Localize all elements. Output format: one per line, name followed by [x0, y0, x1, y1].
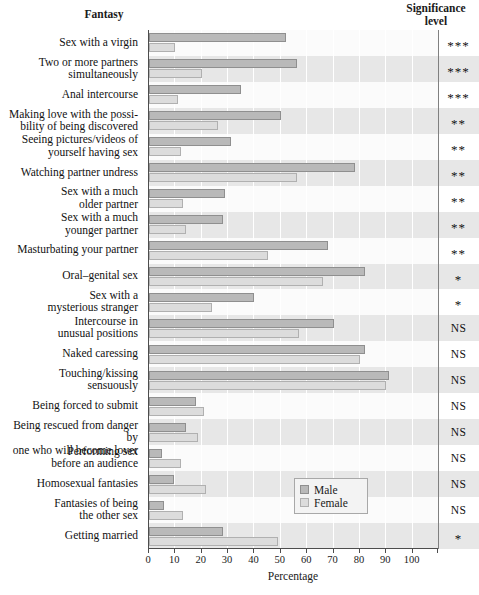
x-axis-tick	[148, 549, 149, 553]
bar-male	[149, 33, 286, 42]
bar-female	[149, 225, 186, 234]
category-label-line: Performing sex	[0, 445, 138, 457]
category-label-line: Touching/kissing	[0, 367, 138, 379]
x-axis-tick-label: 60	[294, 554, 318, 565]
significance-header-line1: Significance	[396, 2, 476, 15]
bar-male	[149, 371, 389, 380]
category-label-line: Making love with the possi-	[0, 108, 138, 120]
category-label-line: Watching partner undress	[0, 166, 138, 178]
significance-value: NS	[438, 374, 479, 386]
category-label-line: younger partner	[0, 224, 138, 236]
significance-value: **	[438, 145, 479, 154]
x-axis-tick	[412, 549, 413, 553]
category-label: Touching/kissingsensuously	[0, 367, 138, 392]
x-axis-tick-label: 90	[373, 554, 397, 565]
bar-female	[149, 147, 181, 156]
grid-line	[412, 30, 413, 549]
category-label-line: older partner	[0, 198, 138, 210]
significance-value: **	[438, 223, 479, 232]
bar-male	[149, 293, 254, 302]
category-label-line: Masturbating your partner	[0, 243, 138, 255]
category-label: Masturbating your partner	[0, 243, 138, 255]
category-label: Performing sexbefore an audience	[0, 445, 138, 470]
category-label-line: bility of being discovered	[0, 120, 138, 132]
category-label: Naked caressing	[0, 347, 138, 359]
x-axis-tick-label: 100	[400, 554, 424, 565]
bar-male	[149, 215, 223, 224]
category-label-line: Sex with a much	[0, 185, 138, 197]
significance-divider	[438, 30, 439, 549]
significance-value: NS	[438, 478, 479, 490]
significance-column: ***********************NSNSNSNSNSNSNSNS*	[438, 30, 479, 549]
bar-male	[149, 189, 225, 198]
bar-female	[149, 537, 278, 546]
bar-female	[149, 433, 198, 442]
legend-swatch-female-icon	[300, 498, 309, 507]
bar-female	[149, 251, 268, 260]
category-label: Being forced to submit	[0, 399, 138, 411]
significance-value: NS	[438, 426, 479, 438]
grid-line	[306, 30, 307, 549]
x-axis-tick	[385, 549, 386, 553]
bar-male	[149, 345, 365, 354]
grid-line	[201, 30, 202, 549]
x-axis-tick	[201, 549, 202, 553]
category-label: Sex with amysterious stranger	[0, 289, 138, 314]
category-label: Sex with a virgin	[0, 36, 138, 48]
legend-swatch-male-icon	[300, 485, 309, 494]
category-label-line: Being forced to submit	[0, 399, 138, 411]
grid-line	[359, 30, 360, 549]
bar-male	[149, 397, 196, 406]
category-label-line: Homosexual fantasies	[0, 477, 138, 489]
significance-value: **	[438, 249, 479, 258]
x-axis-title: Percentage	[148, 570, 438, 582]
x-axis-tick	[437, 549, 438, 553]
bar-male	[149, 111, 281, 120]
bar-female	[149, 121, 218, 130]
category-label-line: Sex with a	[0, 289, 138, 301]
category-label: Oral–genital sex	[0, 269, 138, 281]
bar-female	[149, 303, 212, 312]
significance-value: **	[438, 119, 479, 128]
significance-value: NS	[438, 452, 479, 464]
bar-female	[149, 459, 181, 468]
significance-value: **	[438, 197, 479, 206]
fantasy-significance-chart: Fantasy Significance level Sex with a vi…	[0, 0, 479, 595]
significance-value: *	[438, 275, 479, 284]
category-label: Intercourse inunusual positions	[0, 315, 138, 340]
significance-value: NS	[438, 400, 479, 412]
x-axis-tick	[359, 549, 360, 553]
grid-line	[333, 30, 334, 549]
category-label: Getting married	[0, 529, 138, 541]
legend-item-female: Female	[300, 496, 362, 509]
category-label-line: yourself having sex	[0, 146, 138, 158]
x-axis-tick-label: 0	[136, 554, 160, 565]
category-label-line: Getting married	[0, 529, 138, 541]
category-label: Two or more partnerssimultaneously	[0, 56, 138, 81]
category-label: Anal intercourse	[0, 88, 138, 100]
x-axis-tick	[174, 549, 175, 553]
bar-female	[149, 329, 299, 338]
x-axis-tick	[306, 549, 307, 553]
x-axis-line	[148, 548, 438, 549]
category-label-line: mysterious stranger	[0, 301, 138, 313]
legend-label-male: Male	[314, 484, 338, 496]
significance-value: NS	[438, 348, 479, 360]
category-label: Seeing pictures/videos ofyourself having…	[0, 133, 138, 158]
significance-value: *	[438, 300, 479, 309]
x-axis-tick-label: 10	[162, 554, 186, 565]
x-axis-tick-label: 30	[215, 554, 239, 565]
bar-female	[149, 355, 360, 364]
significance-value: *	[438, 534, 479, 543]
category-label: Sex with a muchyounger partner	[0, 211, 138, 236]
y-axis-line	[148, 30, 149, 549]
significance-value: ***	[438, 93, 479, 102]
bar-female	[149, 511, 183, 520]
x-axis-tick	[280, 549, 281, 553]
legend: Male Female	[294, 478, 368, 514]
category-label-line: the other sex	[0, 509, 138, 521]
category-label-line: before an audience	[0, 457, 138, 469]
bar-female	[149, 69, 202, 78]
category-label: Homosexual fantasies	[0, 477, 138, 489]
bar-male	[149, 163, 355, 172]
